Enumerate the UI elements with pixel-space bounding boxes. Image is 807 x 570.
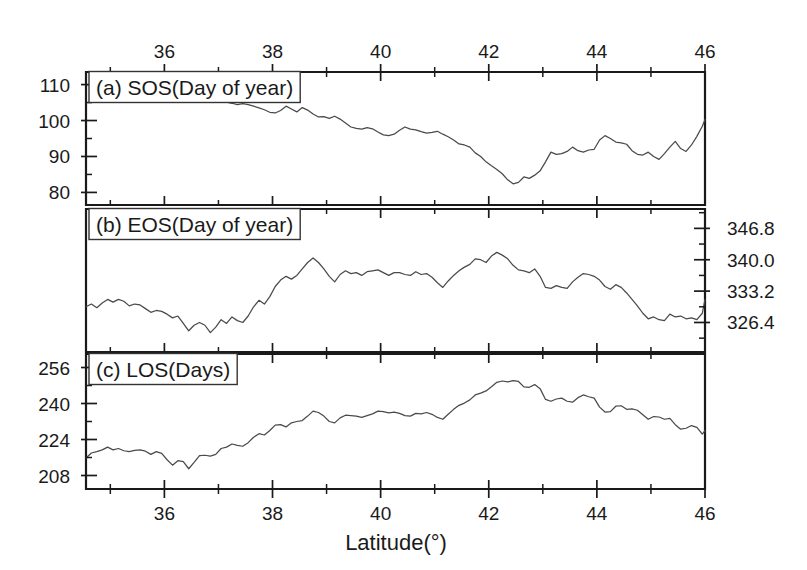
multi-panel-line-chart: 363840424446 8090100110 (a) SOS(Day of y… [0, 0, 807, 570]
panel-b-label-text: (b) EOS(Day of year) [96, 213, 293, 236]
x-tick-label-bottom: 46 [694, 503, 715, 524]
y-tick-label-a: 100 [38, 111, 70, 132]
y-tick-label-b: 346.8 [727, 218, 775, 239]
panel-b-series-line [86, 252, 705, 332]
y-tick-label-c: 256 [38, 358, 70, 379]
x-tick-label-top: 42 [478, 41, 499, 62]
x-tick-label-bottom: 42 [478, 503, 499, 524]
x-tick-label-top: 40 [370, 41, 391, 62]
panel-a-label-text: (a) SOS(Day of year) [96, 76, 293, 99]
y-tick-label-a: 90 [49, 146, 70, 167]
x-tick-label-bottom: 40 [370, 503, 391, 524]
y-tick-label-b: 326.4 [727, 312, 775, 333]
y-tick-label-c: 240 [38, 394, 70, 415]
x-axis-title: Latitude(°) [345, 530, 447, 555]
x-tick-label-top: 44 [586, 41, 608, 62]
panel-c-label: (c) LOS(Days) [89, 354, 237, 385]
x-tick-label-bottom: 38 [262, 503, 283, 524]
panel-a: 363840424446 8090100110 (a) SOS(Day of y… [38, 41, 715, 205]
figure-page: 363840424446 8090100110 (a) SOS(Day of y… [0, 0, 807, 570]
panel-b: 326.4333.2340.0346.8 (b) EOS(Day of year… [86, 209, 775, 353]
y-tick-label-c: 208 [38, 466, 70, 487]
y-tick-label-a: 80 [49, 182, 70, 203]
panel-c-xticks-bottom: 363840424446 [110, 480, 715, 524]
panel-b-ytick-labels: 326.4333.2340.0346.8 [727, 218, 775, 333]
x-tick-label-bottom: 44 [586, 503, 608, 524]
panel-a-label: (a) SOS(Day of year) [89, 72, 300, 103]
x-tick-label-top: 38 [262, 41, 283, 62]
y-tick-label-c: 224 [38, 430, 70, 451]
x-tick-label-top: 36 [154, 41, 175, 62]
panel-a-ytick-labels: 8090100110 [38, 75, 70, 204]
y-tick-label-b: 333.2 [727, 281, 775, 302]
y-tick-label-a: 110 [40, 75, 70, 96]
x-tick-label-top: 46 [694, 41, 715, 62]
panel-b-label: (b) EOS(Day of year) [89, 209, 300, 240]
x-tick-label-bottom: 36 [154, 503, 175, 524]
panel-c-ytick-labels: 208224240256 [38, 358, 70, 487]
panel-c-label-text: (c) LOS(Days) [96, 358, 230, 381]
panel-c-series-line [86, 381, 705, 469]
y-tick-label-b: 340.0 [727, 250, 775, 271]
panel-c: 208224240256 363840424446 (c) LOS(Days) [38, 354, 715, 525]
